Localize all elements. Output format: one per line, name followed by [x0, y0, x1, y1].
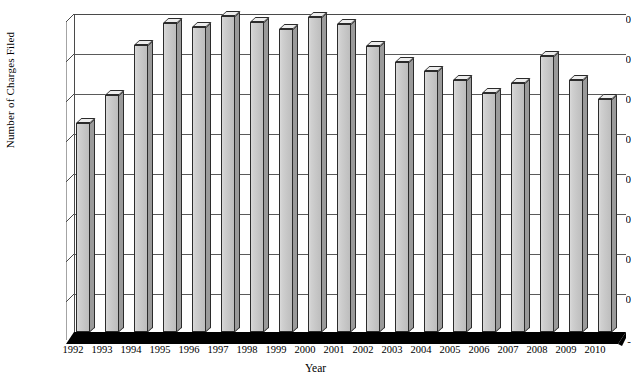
bar-series: [74, 14, 626, 332]
bar-chart: Number of Charges Filed 16,000 14,000 12…: [0, 0, 631, 391]
x-axis-tick-labels: 1992 1993 1994 1995 1996 1997 1998 1999 …: [66, 344, 626, 360]
x-tick-label: 2010: [578, 344, 612, 356]
plot-area: [66, 14, 626, 339]
x-axis-title: Year: [0, 362, 631, 374]
